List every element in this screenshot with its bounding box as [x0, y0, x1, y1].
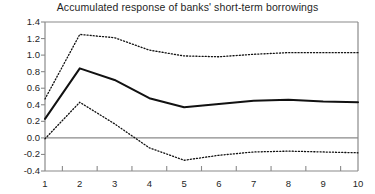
x-axis-tick-label: 8: [276, 178, 300, 189]
x-axis-tick-label: 10: [346, 178, 370, 189]
chart-figure: Accumulated response of banks' short-ter…: [0, 0, 375, 194]
x-axis-tick-label: 1: [33, 178, 57, 189]
x-axis-tick-label: 2: [68, 178, 92, 189]
x-axis-tick-label: 5: [172, 178, 196, 189]
x-axis-tick-labels: 12345678910: [0, 0, 375, 194]
x-axis-tick-label: 7: [242, 178, 266, 189]
x-axis-tick-label: 6: [207, 178, 231, 189]
x-axis-tick-label: 9: [311, 178, 335, 189]
x-axis-tick-label: 4: [137, 178, 161, 189]
x-axis-tick-label: 3: [103, 178, 127, 189]
